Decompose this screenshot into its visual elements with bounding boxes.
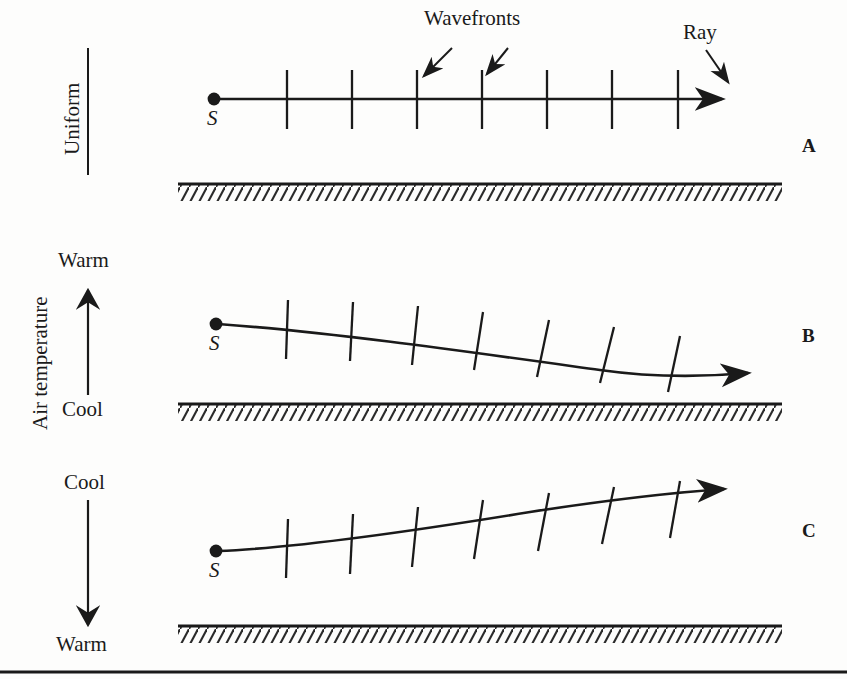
ray-label: Ray	[683, 22, 717, 43]
wavefronts-c	[286, 481, 680, 578]
wavefronts-leader-1	[424, 48, 452, 76]
wavefronts-b	[286, 300, 680, 392]
panel-letter-a: A	[802, 136, 816, 155]
wavefronts-leader-2	[487, 48, 508, 74]
source-label-b: S	[209, 333, 220, 354]
panel-b-group	[88, 290, 782, 421]
panel-c-bottom-word: Warm	[56, 634, 107, 655]
sound-ray-refraction-figure: Wavefronts Ray Uniform S A Air temperatu…	[0, 0, 847, 679]
ground-hatch-b	[178, 405, 782, 421]
source-dot-c	[210, 545, 223, 558]
panel-letter-c: C	[802, 521, 816, 540]
source-label-c: S	[209, 560, 220, 581]
panel-letter-b: B	[802, 326, 815, 345]
wavefronts-label: Wavefronts	[424, 8, 520, 29]
figure-canvas	[0, 0, 847, 679]
vertical-axis-label: Air temperature	[30, 296, 51, 430]
ground-hatch-a	[178, 185, 782, 201]
ray-path-c	[218, 489, 724, 551]
source-dot-a	[208, 93, 221, 106]
uniform-label: Uniform	[62, 83, 83, 155]
panel-b-bottom-word: Cool	[62, 399, 103, 420]
ray-path-b	[218, 324, 748, 376]
panel-b-top-word: Warm	[58, 250, 109, 271]
panel-a-group	[88, 48, 782, 201]
source-label-a: S	[207, 108, 218, 129]
ground-hatch-c	[178, 627, 782, 643]
source-dot-b	[210, 318, 223, 331]
ray-leader	[706, 50, 728, 82]
panel-c-top-word: Cool	[64, 472, 105, 493]
panel-c-group	[88, 481, 782, 643]
